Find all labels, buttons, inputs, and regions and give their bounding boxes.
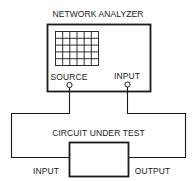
network-analyzer-diagram: NETWORK ANALYZER SOURCE INPUT CIRCUIT UN…	[0, 0, 193, 181]
circuit-under-test-box	[70, 143, 129, 177]
analyzer-title: NETWORK ANALYZER	[52, 9, 143, 19]
dut-input-label: INPUT	[33, 166, 59, 176]
display-screen-grid-icon	[56, 32, 99, 66]
dut-output-to-analyzer-input-wire	[128, 87, 186, 157]
analyzer-input-port-label: INPUT	[114, 71, 140, 81]
source-connector-icon	[67, 82, 72, 87]
dut-output-label: OUTPUT	[135, 166, 171, 176]
source-port-label: SOURCE	[51, 72, 88, 82]
input-connector-icon	[125, 82, 130, 87]
dut-title: CIRCUIT UNDER TEST	[52, 128, 145, 138]
source-to-dut-input-wire	[12, 88, 70, 158]
